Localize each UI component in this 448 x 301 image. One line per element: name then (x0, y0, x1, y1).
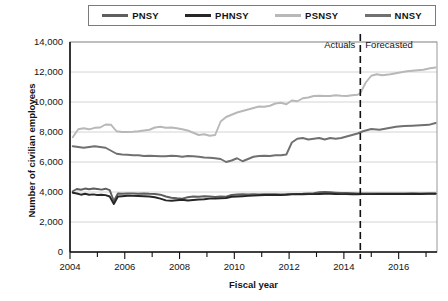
x-tick-label-2016: 2016 (388, 261, 409, 272)
x-tick-label-2008: 2008 (169, 261, 190, 272)
y-tick-label-0: 0 (58, 246, 63, 257)
plot-area: 02,0004,0006,0008,00010,00012,00014,000A… (0, 0, 448, 301)
y-tick-label-12000: 12,000 (34, 66, 63, 77)
x-tick-label-2012: 2012 (279, 261, 300, 272)
plot-border (70, 42, 437, 252)
y-tick-label-8000: 8,000 (39, 126, 63, 137)
y-tick-label-2000: 2,000 (39, 216, 63, 227)
actuals-label: Actuals (324, 39, 355, 50)
x-tick-label-2010: 2010 (224, 261, 245, 272)
y-tick-label-4000: 4,000 (39, 186, 63, 197)
y-tick-label-14000: 14,000 (34, 36, 63, 47)
plot-svg: 02,0004,0006,0008,00010,00012,00014,000A… (0, 0, 448, 301)
x-tick-label-2006: 2006 (114, 261, 135, 272)
series-line-nnsy (73, 123, 436, 162)
forecasted-label: Forecasted (365, 39, 413, 50)
y-tick-label-10000: 10,000 (34, 96, 63, 107)
x-tick-label-2014: 2014 (333, 261, 354, 272)
y-tick-label-6000: 6,000 (39, 156, 63, 167)
chart-container: PNSY PHNSY PSNSY NNSY Number of civilian… (0, 0, 448, 301)
x-tick-label-2004: 2004 (59, 261, 80, 272)
